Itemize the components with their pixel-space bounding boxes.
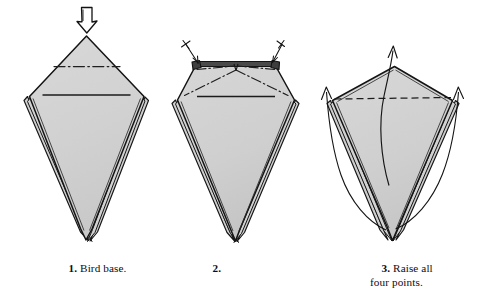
step-number-2: 2. [213,262,222,274]
step-label-3-line-1: Raise all [390,262,433,274]
figure-1-bird-base [24,8,149,242]
figure-3-raise-four-points [322,46,464,241]
step-number-3: 3. [382,262,391,274]
pleat-arrow-left-icon [182,41,199,64]
figure-2-fold-top-down [172,41,299,243]
caption-step-3: 3. Raise allfour points. [370,246,433,292]
figure-1-paper-body [30,36,145,240]
step-label-3-line-2: four points. [370,276,423,288]
push-arrow-down-icon [77,8,97,34]
step-label-1: Bird base. [77,262,126,274]
caption-step-1: 1. Bird base. [57,246,126,290]
figure-2-folded-top-band [195,62,277,67]
caption-step-2: 2. [201,246,221,290]
step-number-1: 1. [69,262,78,274]
pleat-arrow-right-icon [273,41,285,63]
